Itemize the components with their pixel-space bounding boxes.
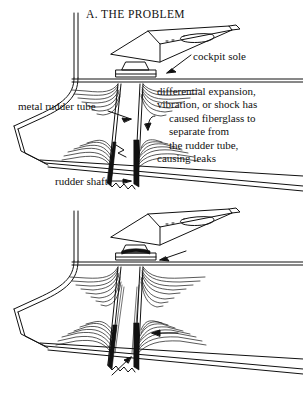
bearing-block xyxy=(116,62,156,77)
label-metal-rudder-tube: metal rudder tube xyxy=(18,100,96,113)
cockpit-sole-line xyxy=(72,262,303,265)
leader-rudder-shaft xyxy=(112,179,131,183)
crack-mark xyxy=(116,145,126,157)
leader-sealant-top xyxy=(160,251,186,261)
label-cockpit-sole: cockpit sole xyxy=(193,50,246,63)
illustration-page: A. THE PROBLEM cockpit sole metal rudder… xyxy=(0,0,303,406)
note-line: causing leaks xyxy=(157,152,303,165)
note-line: caused fiberglass to xyxy=(157,112,303,125)
figure-the-cure: B. THE CURE sealant sealant wrap glass a… xyxy=(0,203,303,406)
glass-wrap-lower-right xyxy=(138,321,206,353)
cockpit-sole-line xyxy=(72,79,303,82)
rudder-tube-bottom-break xyxy=(108,182,135,189)
note-line: vibration, or shock has xyxy=(157,98,303,111)
sole-plate xyxy=(111,208,240,245)
figure-the-problem: A. THE PROBLEM cockpit sole metal rudder… xyxy=(0,0,303,203)
note-the-problem: differential expansion, vibration, or sh… xyxy=(157,85,303,165)
glass-wrap-upper-right xyxy=(141,267,205,307)
leader-note-a xyxy=(145,116,155,130)
figure-b-drawing xyxy=(0,203,303,406)
leader-metal-rudder-tube xyxy=(108,111,131,122)
label-rudder-shaft: rudder shaft xyxy=(55,175,108,188)
hull-profile xyxy=(14,211,78,348)
note-line: differential expansion, xyxy=(157,85,303,98)
note-line: the rudder tube, xyxy=(157,139,303,152)
hull-bottom xyxy=(40,343,303,374)
note-line: separate from xyxy=(157,125,303,138)
hull-profile xyxy=(14,13,78,165)
fiberglass-fillet-lower-left xyxy=(62,140,112,165)
sealant-void-right xyxy=(134,323,139,370)
separation-void-right xyxy=(134,140,139,187)
figure-a-title: A. THE PROBLEM xyxy=(86,8,185,20)
glass-wrap-upper-left xyxy=(70,267,121,306)
